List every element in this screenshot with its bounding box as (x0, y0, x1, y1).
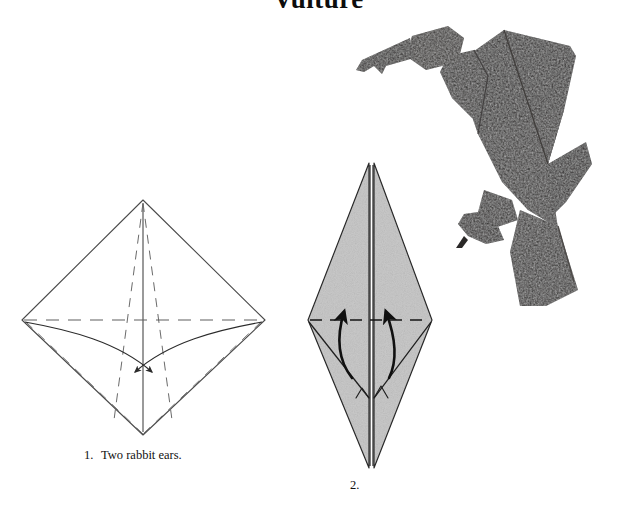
step1-figure (22, 200, 265, 435)
vulture-photo-svg (352, 14, 637, 306)
vulture-beak (356, 38, 414, 74)
step1-caption: 1.Two rabbit ears. (84, 448, 182, 463)
step2-caption: 2. (350, 478, 367, 493)
vulture-photograph (352, 14, 637, 306)
page-root: Vulture (0, 0, 637, 511)
step1-number: 1. (84, 448, 101, 463)
step1-caption-text: Two rabbit ears. (101, 448, 182, 462)
step2-number: 2. (350, 478, 367, 493)
vulture-talon-claw (456, 236, 468, 248)
vulture-wingtip (548, 142, 592, 216)
